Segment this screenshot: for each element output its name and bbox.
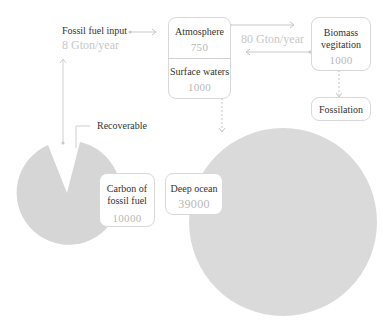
- recoverable-to-input-line: [60, 59, 66, 145]
- biomass-box[interactable]: Biomass vegitation 1000: [311, 17, 371, 71]
- biomass-label-line1: Biomass: [312, 27, 370, 39]
- fossil-carbon-label-line1: Carbon of: [100, 183, 154, 195]
- fossil-carbon-label-line2: fossil fuel: [100, 195, 154, 207]
- surface-to-deep-ocean-line: [219, 97, 225, 133]
- fossil-carbon-value: 10000: [100, 211, 154, 225]
- atmosphere-surface-box[interactable]: Atmosphere 750 Surface waters 1000: [168, 17, 231, 99]
- deep-ocean-label: Deep ocean: [166, 183, 222, 195]
- biomass-to-atmosphere-arrow: [246, 49, 312, 55]
- fossil-input-label: Fossil fuel input: [62, 25, 127, 37]
- biomass-label-line2: vegitation: [312, 39, 370, 51]
- surface-waters-value: 1000: [169, 80, 230, 94]
- surface-waters-label: Surface waters: [169, 66, 230, 78]
- atmosphere-label: Atmosphere: [169, 26, 230, 38]
- deep-ocean-box[interactable]: Deep ocean 39000: [165, 173, 223, 215]
- deep-ocean-circle: [189, 128, 377, 316]
- recoverable-label: Recoverable: [97, 120, 147, 132]
- fossilation-box[interactable]: Fossilation: [311, 97, 371, 121]
- deep-ocean-value: 39000: [166, 197, 222, 211]
- fossil-input-arrow: [129, 29, 157, 35]
- atmosphere-divider: [168, 58, 231, 59]
- exchange-flow-rate: 80 Gton/year: [241, 32, 304, 47]
- fossil-input-rate: 8 Gton/year: [62, 38, 119, 53]
- atmosphere-to-biomass-arrow: [229, 22, 295, 28]
- fossilation-label: Fossilation: [312, 104, 370, 116]
- biomass-value: 1000: [312, 53, 370, 67]
- atmosphere-value: 750: [169, 40, 230, 54]
- fossil-carbon-box[interactable]: Carbon of fossil fuel 10000: [99, 173, 155, 227]
- biomass-to-fossilation-line: [336, 69, 342, 98]
